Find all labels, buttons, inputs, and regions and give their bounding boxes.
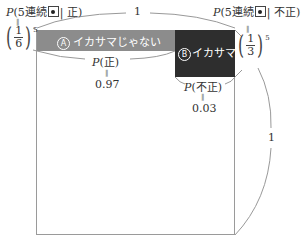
region-a-fair: Aイカサマじゃない (37, 30, 175, 51)
prob-unfair-label: P(不正) (184, 78, 222, 94)
marker-a-icon: A (57, 37, 70, 50)
left-formula-label: P(5連続| 正) (6, 3, 82, 19)
height-label: 1 (268, 131, 275, 144)
right-formula-label: P(5連続| 不正) (213, 3, 300, 19)
prob-fair-equals: ‖ (105, 69, 109, 77)
region-a-label: Aイカサマじゃない (57, 33, 161, 50)
prob-unfair-value: 0.03 (192, 102, 217, 115)
region-b-label: Bイカサマ! (178, 44, 240, 61)
dice-one-pip-icon (255, 6, 266, 17)
dice-one-pip-icon (48, 6, 59, 17)
width-label: 1 (134, 5, 141, 18)
right-fraction: ( 13 ) 5 (236, 32, 270, 58)
prob-fair-label: P(正) (92, 53, 119, 69)
region-b-unfair: Bイカサマ! (175, 30, 235, 77)
prob-unfair-equals: ‖ (201, 93, 205, 101)
left-fraction: ( 16 ) 5 (4, 24, 38, 50)
prob-fair-value: 0.97 (95, 78, 120, 91)
marker-b-icon: B (178, 48, 191, 61)
